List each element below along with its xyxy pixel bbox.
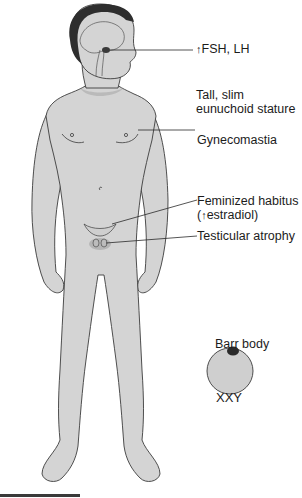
pituitary-gland-icon	[102, 47, 110, 53]
xxy-cell-diagram	[207, 347, 253, 395]
label-stature: Tall, slim eunuchoid stature	[196, 88, 295, 116]
label-gynecomastia: Gynecomastia	[197, 133, 277, 147]
label-barr-body: Barr body	[215, 337, 269, 351]
label-testicular-atrophy: Testicular atrophy	[197, 229, 295, 243]
bottom-divider-bar	[0, 494, 80, 497]
klinefelter-figure-illustration	[0, 0, 302, 498]
label-feminized-habitus: Feminized habitus (↑estradiol)	[197, 194, 298, 222]
label-karyotype: XXY	[216, 391, 242, 405]
label-fsh-lh: ↑FSH, LH	[196, 42, 249, 56]
